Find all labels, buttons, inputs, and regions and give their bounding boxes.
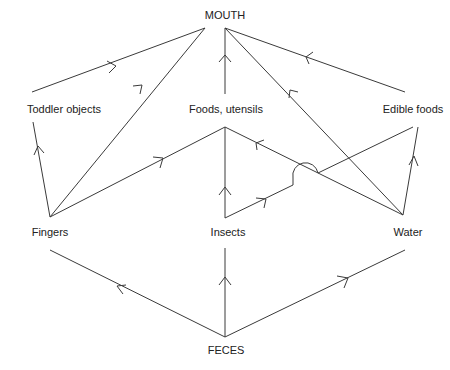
arrow-icon	[256, 198, 266, 208]
edge-water-edible	[403, 127, 418, 215]
node-insects: Insects	[211, 226, 246, 238]
arrow-icon	[256, 140, 264, 150]
arrow-icon	[153, 157, 163, 168]
node-water: Water	[394, 226, 423, 238]
node-toddler-objects: Toddler objects	[27, 103, 101, 115]
transmission-diagram: MOUTH Toddler objects Foods, utensils Ed…	[0, 0, 450, 370]
node-feces: FECES	[208, 344, 245, 356]
node-edible-foods: Edible foods	[383, 103, 444, 115]
arrow-icon	[409, 156, 418, 166]
edge-water-foods	[225, 127, 403, 215]
edge-edible-mouth	[225, 28, 405, 92]
node-fingers: Fingers	[32, 226, 69, 238]
edge-feces-fingers	[50, 250, 225, 337]
edge-water-mouth	[225, 28, 403, 215]
node-foods-utensils: Foods, utensils	[189, 103, 263, 115]
arrow-icon	[117, 285, 126, 294]
edge-fingers-toddler	[33, 122, 50, 217]
edge-feces-water	[225, 250, 405, 337]
diagram-edges	[0, 0, 450, 370]
arrow-icon	[133, 85, 142, 94]
edge-fingers-foods	[50, 127, 225, 217]
node-mouth: MOUTH	[205, 9, 245, 21]
